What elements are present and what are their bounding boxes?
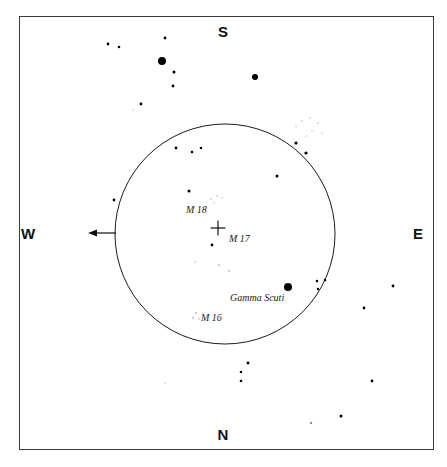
star-dot <box>140 103 143 106</box>
star-dot <box>247 362 250 365</box>
star-dot <box>192 317 194 319</box>
star-dot <box>340 415 343 418</box>
arrow-head <box>88 229 97 236</box>
star-dot <box>252 74 258 80</box>
star-dot <box>304 151 307 154</box>
star-dot <box>210 198 212 200</box>
star-dot <box>216 195 218 197</box>
binocular-field-circle <box>115 124 335 344</box>
sky-field <box>0 0 447 467</box>
star-dot <box>164 37 167 40</box>
star-dot <box>295 125 296 126</box>
star-dots <box>107 37 395 425</box>
star-dot <box>175 147 178 150</box>
west-direction-arrow <box>88 229 116 236</box>
star-dot <box>200 147 203 150</box>
star-dot <box>305 135 306 136</box>
cardinal-label-west: W <box>17 226 39 241</box>
star-dot <box>310 422 312 424</box>
label-m18: M 18 <box>186 205 207 215</box>
star-dot <box>158 57 166 65</box>
star-dot <box>284 283 292 291</box>
star-dot <box>301 120 303 122</box>
m17-cross-marker <box>211 221 226 236</box>
label-m17: M 17 <box>229 234 250 244</box>
star-dot <box>188 190 191 193</box>
star-dot <box>321 132 322 133</box>
star-dot <box>213 202 214 203</box>
star-dot <box>211 244 214 247</box>
cardinal-label-south: S <box>212 24 234 39</box>
star-dot <box>172 85 175 88</box>
star-dot <box>240 371 243 374</box>
star-dot <box>392 285 395 288</box>
star-dot <box>173 71 176 74</box>
star-dot <box>276 175 279 178</box>
star-dot <box>113 199 116 202</box>
star-dot <box>316 280 319 283</box>
star-dot <box>240 380 243 383</box>
cardinal-label-north: N <box>212 427 234 442</box>
star-chart: S N W E M 18 M 17 M 16 Gamma Scuti <box>0 0 447 467</box>
star-dot <box>294 141 297 144</box>
star-dot <box>311 130 312 131</box>
field-circle <box>115 124 335 344</box>
star-dot <box>164 382 165 383</box>
star-dot <box>194 261 196 263</box>
star-dot <box>309 117 310 118</box>
label-m16: M 16 <box>201 313 222 323</box>
star-dot <box>107 43 110 46</box>
star-dot <box>198 318 200 320</box>
star-dot <box>363 307 366 310</box>
star-dot <box>218 264 220 266</box>
star-dot <box>221 197 222 198</box>
star-dot <box>371 380 374 383</box>
star-dot <box>195 312 197 314</box>
star-dot <box>317 122 319 124</box>
star-dot <box>118 46 121 49</box>
cardinal-label-east: E <box>407 226 429 241</box>
label-gamma-scuti: Gamma Scuti <box>230 293 284 303</box>
star-dot <box>191 151 194 154</box>
star-dot <box>132 109 133 110</box>
star-dot <box>317 288 319 290</box>
star-dot <box>324 279 327 282</box>
star-dot <box>228 270 230 272</box>
